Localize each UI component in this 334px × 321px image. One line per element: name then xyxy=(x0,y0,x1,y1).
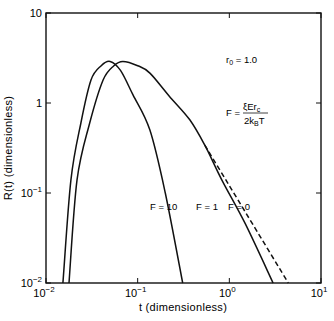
label-f1: F = 1 xyxy=(196,201,218,212)
plot-frame xyxy=(46,13,321,283)
x-axis-title: t (dimensionless) xyxy=(139,301,227,313)
x-tick-label: 101 xyxy=(311,285,328,299)
y-tick-label: 1 xyxy=(36,97,42,109)
x-tick-label: 10−2 xyxy=(33,285,55,299)
svg-text:ξErc: ξErc xyxy=(243,101,261,113)
x-tick-label: 10−1 xyxy=(125,285,147,299)
chart-canvas: 10−210−110010110−210−1110 F = 10 F = 1 F… xyxy=(0,0,334,321)
y-tick-label: 10 xyxy=(30,7,42,19)
data-curves xyxy=(63,61,288,283)
svg-text:F =: F = xyxy=(226,107,240,118)
formula-F: F = ξErc 2kBT xyxy=(226,101,268,127)
label-r0: r0 = 1.0 xyxy=(226,54,257,66)
x-tick-label: 100 xyxy=(219,285,236,299)
label-f10: F = 10 xyxy=(150,201,177,212)
y-axis-title: R(t) (dimensionless) xyxy=(2,96,14,200)
curve-f1 xyxy=(69,61,273,283)
svg-text:2kBT: 2kBT xyxy=(244,115,265,127)
axis-ticks: 10−210−110010110−210−1110 xyxy=(21,7,328,299)
label-f0: F = 0 xyxy=(228,201,250,212)
y-tick-label: 10−1 xyxy=(21,185,43,199)
curve-f0 xyxy=(205,145,288,283)
curve-f10 xyxy=(63,61,183,283)
